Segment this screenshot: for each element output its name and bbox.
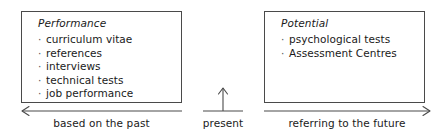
list-item: ·curriculum vitae — [38, 33, 177, 47]
list-item-label: job performance — [46, 87, 133, 99]
panel-potential-content: Potential ·psychological tests ·Assessme… — [281, 17, 420, 60]
diagram-canvas: Performance ·curriculum vitae ·reference… — [0, 0, 447, 137]
bullet-icon: · — [38, 60, 41, 74]
list-item: ·technical tests — [38, 74, 177, 88]
list-item: ·psychological tests — [281, 33, 420, 47]
bullet-icon: · — [38, 47, 41, 61]
list-item: ·job performance — [38, 87, 177, 101]
list-item-label: references — [46, 47, 102, 59]
panel-performance-list: ·curriculum vitae ·references ·interview… — [38, 33, 177, 101]
panel-potential: Potential ·psychological tests ·Assessme… — [264, 11, 425, 103]
list-item-label: psychological tests — [289, 33, 390, 45]
bullet-icon: · — [281, 47, 284, 61]
present-arrow-icon — [203, 88, 243, 111]
list-item: ·interviews — [38, 60, 177, 74]
panel-performance-content: Performance ·curriculum vitae ·reference… — [38, 17, 177, 101]
axis-label-present: present — [193, 117, 253, 130]
list-item-label: Assessment Centres — [289, 47, 397, 59]
panel-potential-title: Potential — [281, 17, 420, 30]
panel-potential-list: ·psychological tests ·Assessment Centres — [281, 33, 420, 60]
panel-performance-title: Performance — [38, 17, 177, 30]
bullet-icon: · — [38, 33, 41, 47]
list-item: ·references — [38, 47, 177, 61]
panel-performance: Performance ·curriculum vitae ·reference… — [21, 11, 182, 103]
list-item-label: interviews — [46, 60, 101, 72]
list-item: ·Assessment Centres — [281, 47, 420, 61]
past-arrow-icon — [22, 107, 182, 116]
list-item-label: technical tests — [46, 74, 123, 86]
bullet-icon: · — [281, 33, 284, 47]
future-arrow-icon — [264, 107, 430, 116]
axis-label-past: based on the past — [21, 117, 182, 130]
list-item-label: curriculum vitae — [46, 33, 132, 45]
bullet-icon: · — [38, 87, 41, 101]
axis-label-future: referring to the future — [264, 117, 430, 130]
bullet-icon: · — [38, 74, 41, 88]
